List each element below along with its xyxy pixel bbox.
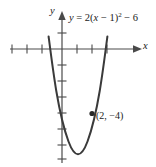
- equation-equals: =: [74, 12, 85, 23]
- equation-constant: − 6: [122, 12, 138, 23]
- x-axis-arrow-icon: [133, 45, 142, 53]
- equation-label: y = 2(x − 1)2 − 6: [69, 13, 138, 24]
- y-axis-arrow-icon: [58, 11, 65, 20]
- parabola-curve: [49, 37, 108, 155]
- equation-minus-one: − 1: [98, 12, 114, 23]
- y-axis-label: y: [50, 6, 55, 17]
- coordinate-plot: [0, 0, 156, 167]
- point-coordinate-label: (2, −4): [96, 111, 123, 121]
- parabola-graph-figure: y = 2(x − 1)2 − 6 (2, −4) x y: [0, 0, 156, 167]
- x-axis-label: x: [143, 41, 148, 52]
- point-marker-dot: [89, 111, 94, 116]
